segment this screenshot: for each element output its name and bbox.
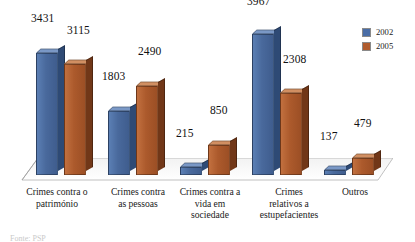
category-label-line: vida em [170, 198, 250, 210]
bar-front-face [280, 93, 302, 175]
value-label-2005-estupefacientes: 2308 [283, 53, 306, 65]
legend-item-2005[interactable]: 2005 [362, 41, 410, 52]
category-label-line: as pessoas [100, 198, 176, 210]
bar-side-face [158, 78, 165, 171]
category-label-line: Outros [322, 186, 388, 198]
value-label-2005-vida-sociedade: 850 [210, 104, 228, 116]
value-label-2002-patrimonio: 3431 [31, 12, 54, 24]
bar-front-face [36, 53, 58, 175]
category-label-line: Crimes contra a [170, 186, 250, 198]
category-label-pessoas: Crimes contra as pessoas [100, 186, 176, 209]
category-label-line: património [14, 198, 100, 210]
value-label-2002-outros: 137 [320, 130, 338, 142]
legend-label-2002: 2002 [376, 28, 393, 37]
bar-front-face [180, 167, 202, 175]
value-label-2002-vida-sociedade: 215 [176, 127, 194, 139]
bar-side-face [374, 150, 381, 171]
category-label-outros: Outros [322, 186, 388, 198]
value-label-2005-pessoas: 2490 [138, 45, 161, 57]
plot-area: 3431 3115 1803 2490 [0, 0, 350, 175]
category-label-line: relativos a [245, 198, 333, 210]
bar-2002-patrimonio[interactable] [36, 53, 58, 175]
bar-2005-outros[interactable] [352, 158, 374, 175]
legend-swatch-2005 [362, 42, 371, 51]
bar-chart: 3431 3115 1803 2490 [0, 0, 415, 242]
bar-side-face [86, 56, 93, 171]
bar-2005-patrimonio[interactable] [64, 64, 86, 175]
bar-front-face [252, 34, 274, 175]
bar-front-face [64, 64, 86, 175]
category-label-patrimonio: Crimes contra o património [14, 186, 100, 209]
bar-front-face [324, 170, 346, 175]
bar-group-crimes-contra-o-patrimonio: 3431 3115 [30, 0, 100, 175]
bar-2002-estupefacientes[interactable] [252, 34, 274, 175]
bar-group-crimes-relativos-a-estupefacientes: 3967 2308 [246, 0, 316, 175]
value-label-2005-patrimonio: 3115 [67, 24, 90, 36]
bar-front-face [208, 145, 230, 175]
value-label-2002-pessoas: 1803 [102, 70, 125, 82]
bar-group-crimes-contra-a-vida-em-sociedade: 215 850 [174, 0, 244, 175]
category-label-line: Crimes [245, 186, 333, 198]
bar-2005-vida-sociedade[interactable] [208, 145, 230, 175]
chart-legend: 2002 2005 [362, 27, 410, 55]
bar-2002-pessoas[interactable] [108, 111, 130, 175]
bar-2002-outros[interactable] [324, 170, 346, 175]
bar-2002-vida-sociedade[interactable] [180, 167, 202, 175]
source-note: Fonte: PSP [10, 234, 46, 242]
legend-item-2002[interactable]: 2002 [362, 27, 410, 38]
category-label-line: Crimes contra o [14, 186, 100, 198]
legend-swatch-2002 [362, 28, 371, 37]
category-label-line: estupefacientes [245, 209, 333, 221]
category-label-vida-sociedade: Crimes contra a vida em sociedade [170, 186, 250, 221]
bar-front-face [108, 111, 130, 175]
category-label-estupefacientes: Crimes relativos a estupefacientes [245, 186, 333, 221]
legend-label-2005: 2005 [376, 42, 393, 51]
value-label-2002-estupefacientes: 3967 [247, 0, 270, 7]
bar-2005-estupefacientes[interactable] [280, 93, 302, 175]
bar-side-face [302, 85, 309, 171]
bar-front-face [136, 86, 158, 175]
bar-front-face [352, 158, 374, 175]
category-label-line: Crimes contra [100, 186, 176, 198]
bar-group-crimes-contra-as-pessoas: 1803 2490 [102, 0, 172, 175]
category-label-line: sociedade [170, 209, 250, 221]
bar-side-face [230, 137, 237, 171]
bar-2005-pessoas[interactable] [136, 86, 158, 175]
value-label-2005-outros: 479 [354, 117, 372, 129]
